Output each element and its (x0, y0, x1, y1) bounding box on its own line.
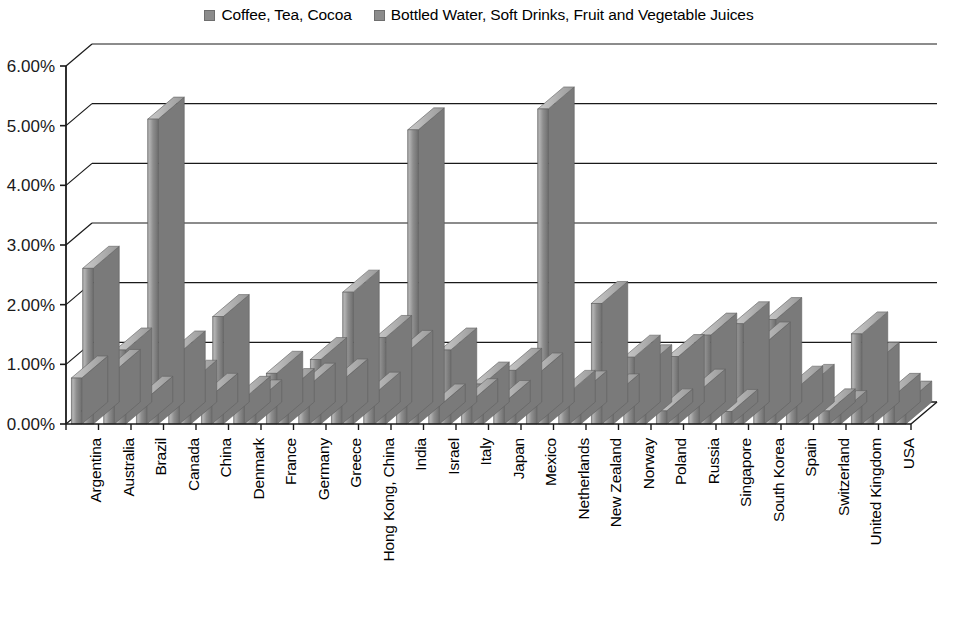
gridline (66, 44, 937, 66)
legend-swatch-icon (204, 10, 215, 21)
gridline (66, 163, 937, 185)
x-tick-label: Poland (673, 438, 689, 485)
gridline (66, 283, 937, 305)
x-tick-label: Russia (706, 438, 722, 484)
x-tick-label: France (283, 438, 299, 485)
x-tick-label: Australia (121, 438, 137, 497)
legend-entry-bottled-water-soft-drinks-juices[interactable]: Bottled Water, Soft Drinks, Fruit and Ve… (374, 7, 754, 23)
chart-canvas: 0.00%1.00%2.00%3.00%4.00%5.00%6.00% (0, 26, 958, 446)
x-tick-label: USA (901, 438, 917, 469)
x-tick-label: Denmark (251, 438, 267, 499)
x-tick-label: Mexico (543, 438, 559, 486)
y-tick-label: 1.00% (7, 355, 55, 374)
x-tick-label: Switzerland (836, 438, 852, 516)
gridline (66, 104, 937, 126)
x-axis-tick-labels: ArgentinaAustraliaBrazilCanadaChinaDenma… (0, 438, 958, 623)
x-tick-label: Germany (316, 438, 332, 500)
x-tick-label: China (218, 438, 234, 478)
bar[interactable] (148, 97, 185, 424)
gridline (66, 223, 937, 245)
x-tick-label: India (413, 438, 429, 471)
x-tick-label: Greece (348, 438, 364, 488)
x-tick-label: Brazil (153, 438, 169, 476)
legend-swatch-icon (374, 10, 385, 21)
x-tick-label: Japan (511, 438, 527, 479)
x-tick-label: Israel (446, 438, 462, 475)
x-tick-label: Hong Kong, China (381, 438, 397, 561)
x-tick-label: South Korea (771, 438, 787, 522)
legend-entry-coffee-tea-cocoa[interactable]: Coffee, Tea, Cocoa (204, 7, 351, 23)
x-tick-label: Norway (641, 438, 657, 489)
plot-area: 0.00%1.00%2.00%3.00%4.00%5.00%6.00% (0, 26, 958, 446)
y-tick-label: 0.00% (7, 415, 55, 434)
x-tick-label: New Zealand (608, 438, 624, 527)
x-tick-label: Canada (186, 438, 202, 491)
x-tick-label: Singapore (738, 438, 754, 507)
legend-label: Bottled Water, Soft Drinks, Fruit and Ve… (391, 7, 754, 23)
y-axis-tick-labels: 0.00%1.00%2.00%3.00%4.00%5.00%6.00% (7, 57, 55, 434)
x-tick-label: Argentina (88, 438, 104, 503)
chart-root: Coffee, Tea, Cocoa Bottled Water, Soft D… (0, 0, 958, 623)
y-tick-label: 2.00% (7, 296, 55, 315)
x-tick-label: Spain (803, 438, 819, 477)
chart-legend: Coffee, Tea, Cocoa Bottled Water, Soft D… (0, 4, 958, 26)
x-tick-label: Italy (478, 438, 494, 465)
y-tick-label: 6.00% (7, 57, 55, 76)
x-tick-label: Netherlands (576, 438, 592, 519)
x-tick-label: United Kingdom (868, 438, 884, 546)
y-tick-label: 4.00% (7, 176, 55, 195)
bars (71, 87, 932, 424)
y-tick-label: 3.00% (7, 236, 55, 255)
legend-label: Coffee, Tea, Cocoa (221, 7, 351, 23)
y-tick-label: 5.00% (7, 117, 55, 136)
